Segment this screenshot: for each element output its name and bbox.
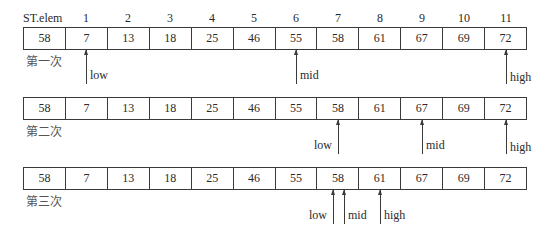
mid-pointer-label: mid: [426, 138, 445, 152]
array-cell: 18: [149, 98, 191, 119]
array-cell: 25: [191, 168, 233, 189]
index-label: 8: [359, 11, 401, 25]
index-label: 6: [275, 11, 317, 25]
pass-label-3: 第三次: [26, 192, 62, 209]
high-pointer-arrow-icon: [506, 50, 507, 84]
array-cell: 7: [65, 28, 107, 49]
low-pointer-arrow-icon: [338, 120, 339, 154]
array-row-pass-3: 58713182546555861676972: [23, 167, 527, 190]
array-cell: 46: [233, 28, 275, 49]
high-pointer-label: high: [510, 140, 531, 154]
high-pointer-arrow-icon: [380, 190, 381, 224]
index-label: 11: [485, 11, 527, 25]
low-pointer-label: low: [90, 68, 108, 82]
array-cell: 58: [24, 98, 65, 119]
array-cell: 69: [442, 28, 484, 49]
array-row-pass-2: 58713182546555861676972: [23, 97, 527, 120]
index-label: 4: [191, 11, 233, 25]
array-cell: 72: [484, 98, 526, 119]
array-cell: 25: [191, 98, 233, 119]
array-cell: 67: [400, 168, 442, 189]
array-cell: 61: [358, 28, 400, 49]
array-cell: 69: [442, 168, 484, 189]
array-cell: 67: [400, 98, 442, 119]
array-cell: 46: [233, 168, 275, 189]
pass-label-2: 第二次: [26, 122, 62, 139]
index-label: 9: [401, 11, 443, 25]
array-cell: 25: [191, 28, 233, 49]
array-cell: 7: [65, 168, 107, 189]
array-cell: 72: [484, 28, 526, 49]
array-cell: 58: [316, 28, 358, 49]
array-cell: 18: [149, 28, 191, 49]
mid-pointer-label: mid: [300, 68, 319, 82]
high-pointer-arrow-icon: [506, 120, 507, 154]
low-pointer-label: low: [314, 138, 332, 152]
array-cell: 67: [400, 28, 442, 49]
high-pointer-label: high: [510, 70, 531, 84]
mid-pointer-arrow-icon: [422, 120, 423, 154]
index-label: 5: [233, 11, 275, 25]
index-label: 10: [443, 11, 485, 25]
array-cell: 58: [316, 168, 358, 189]
array-cell: 61: [358, 98, 400, 119]
array-row-pass-1: 58713182546555861676972: [23, 27, 527, 50]
array-cell: 58: [24, 28, 65, 49]
mid-pointer-label: mid: [348, 208, 367, 222]
index-label: 2: [107, 11, 149, 25]
array-cell: 61: [358, 168, 400, 189]
index-label: 7: [317, 11, 359, 25]
array-cell: 55: [275, 168, 317, 189]
pass-label-1: 第一次: [26, 52, 62, 69]
index-label: 3: [149, 11, 191, 25]
array-cell: 13: [107, 168, 149, 189]
low-pointer-label: low: [309, 208, 327, 222]
array-cell: 69: [442, 98, 484, 119]
mid-pointer-arrow-icon: [296, 50, 297, 84]
array-cell: 58: [24, 168, 65, 189]
array-cell: 55: [275, 98, 317, 119]
array-cell: 58: [316, 98, 358, 119]
array-cell: 18: [149, 168, 191, 189]
mid-pointer-arrow-icon: [344, 190, 345, 224]
array-cell: 72: [484, 168, 526, 189]
array-cell: 55: [275, 28, 317, 49]
low-pointer-arrow-icon: [333, 190, 334, 224]
high-pointer-label: high: [384, 208, 405, 222]
array-cell: 46: [233, 98, 275, 119]
index-label: 1: [65, 11, 107, 25]
array-cell: 13: [107, 28, 149, 49]
array-cell: 13: [107, 98, 149, 119]
array-cell: 7: [65, 98, 107, 119]
low-pointer-arrow-icon: [86, 50, 87, 84]
